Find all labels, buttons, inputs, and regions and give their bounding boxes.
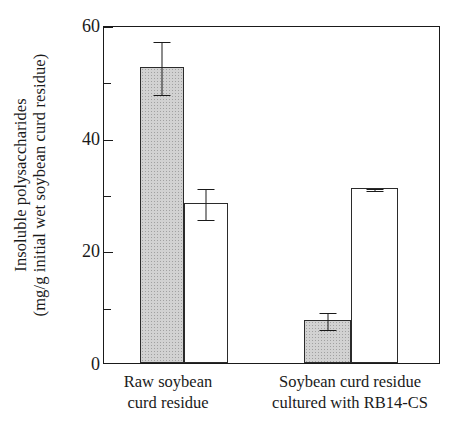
x-category-raw-line1: Raw soybean (108, 371, 228, 392)
figure-bar-chart: Insoluble polysaccharides (mg/g initial … (0, 0, 462, 433)
x-category-raw-line2: curd residue (108, 392, 228, 413)
errorbar-cap-bottom (154, 95, 171, 96)
errorbar-cap-top (319, 313, 336, 314)
y-tick-40 (104, 140, 113, 141)
errorbar-cap-bottom (319, 330, 336, 331)
y-tick-label-0: 0 (60, 355, 100, 373)
plot-area (103, 26, 440, 364)
errorbar-cap-top (154, 42, 171, 43)
y-axis-tick-labels: 60 40 20 0 (58, 0, 100, 433)
y-tick-30 (104, 196, 111, 197)
x-category-label-cultured: Soybean curd residue cultured with RB14-… (250, 371, 450, 413)
y-tick-20 (104, 252, 113, 253)
bar-cultured-open (351, 188, 398, 363)
y-axis-title-line2: (mg/g initial wet soybean curd residue) (31, 54, 50, 317)
y-tick-50 (104, 83, 111, 84)
y-tick-label-20: 20 (60, 242, 100, 260)
bar-raw-open (184, 203, 228, 363)
errorbar-cap-bottom (198, 220, 215, 221)
errorbar-cap-bottom (366, 191, 383, 192)
x-category-label-raw: Raw soybean curd residue (108, 371, 228, 413)
bar-raw-shaded (140, 67, 184, 363)
errorbar-cultured-shaded (304, 313, 351, 331)
errorbar-raw-shaded (140, 42, 184, 96)
y-tick-10 (104, 309, 111, 310)
y-tick-label-60: 60 (60, 17, 100, 35)
errorbar-cap-top (366, 189, 383, 190)
errorbar-stem (327, 313, 328, 331)
errorbar-raw-open (184, 189, 228, 222)
y-tick-label-40: 40 (60, 130, 100, 148)
x-category-cultured-line1: Soybean curd residue (250, 371, 450, 392)
y-tick-60 (104, 27, 113, 28)
y-axis-title: Insoluble polysaccharides (mg/g initial … (0, 0, 62, 370)
errorbar-cultured-open (351, 189, 398, 192)
errorbar-stem (162, 42, 163, 96)
x-category-cultured-line2: cultured with RB14-CS (250, 392, 450, 413)
errorbar-stem (206, 189, 207, 222)
y-axis-title-line1: Insoluble polysaccharides (12, 98, 31, 271)
errorbar-cap-top (198, 189, 215, 190)
